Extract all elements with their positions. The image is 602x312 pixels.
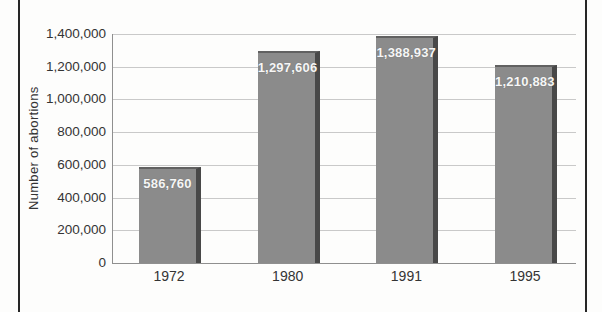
bar-value-label: 586,760 bbox=[139, 169, 196, 191]
x-axis-label-1980: 1980 bbox=[248, 268, 328, 284]
y-tick-label: 0 bbox=[16, 255, 106, 271]
y-tick-label: 400,000 bbox=[16, 190, 106, 206]
x-axis-label-1972: 1972 bbox=[129, 268, 209, 284]
y-tick-label: 1,400,000 bbox=[16, 26, 106, 42]
plot-area: 586,7601,297,6061,388,9371,210,883 bbox=[112, 34, 576, 264]
bar-1995: 1,210,883 bbox=[495, 65, 557, 263]
y-tick-label: 200,000 bbox=[16, 222, 106, 238]
bar-1980: 1,297,606 bbox=[258, 51, 320, 263]
y-tick-label: 1,200,000 bbox=[16, 59, 106, 75]
bar-value-label: 1,210,883 bbox=[495, 67, 552, 89]
page-right-rule bbox=[585, 0, 587, 312]
chart-figure: Number of abortions 586,7601,297,6061,38… bbox=[0, 0, 602, 312]
bar-1991: 1,388,937 bbox=[376, 36, 438, 263]
y-tick-label: 600,000 bbox=[16, 157, 106, 173]
x-axis-label-1995: 1995 bbox=[485, 268, 565, 284]
bar-value-label: 1,297,606 bbox=[258, 53, 315, 75]
x-axis-label-1991: 1991 bbox=[366, 268, 446, 284]
y-tick-label: 1,000,000 bbox=[16, 91, 106, 107]
y-tick-label: 800,000 bbox=[16, 124, 106, 140]
bar-1972: 586,760 bbox=[139, 167, 201, 263]
gridline bbox=[113, 34, 576, 35]
bar-value-label: 1,388,937 bbox=[376, 38, 433, 60]
